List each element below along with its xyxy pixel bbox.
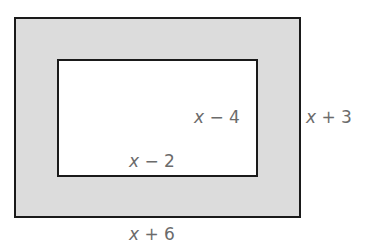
inner-width-label: x − 2 bbox=[129, 151, 175, 171]
outer-width-label: x + 6 bbox=[129, 224, 175, 244]
inner-height-label: x − 4 bbox=[194, 107, 240, 127]
outer-height-label: x + 3 bbox=[306, 107, 352, 127]
